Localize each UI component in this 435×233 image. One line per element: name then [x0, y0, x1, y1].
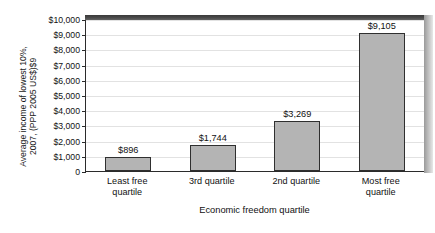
bar-value-label: $9,105	[368, 21, 396, 31]
bar	[274, 121, 320, 171]
y-axis-tick-label: $10,000	[28, 16, 80, 25]
x-axis-title: Economic freedom quartile	[85, 205, 424, 215]
x-axis-category-label: 2nd quartile	[248, 176, 344, 187]
x-axis-category-label: 3rd quartile	[164, 176, 260, 187]
plot-area: $896$1,744$3,269$9,105	[85, 20, 424, 172]
y-axis-tick-label: $9,000	[28, 31, 80, 40]
y-axis-tick-label: $8,000	[28, 46, 80, 55]
x-axis-category-label: Least free quartile	[79, 176, 175, 197]
y-axis-tick-label: $2,000	[28, 137, 80, 146]
bar-value-label: $1,744	[199, 133, 227, 143]
plot-frame-right-shadow	[424, 15, 433, 173]
x-axis-category-label: Most free quartile	[333, 176, 429, 197]
y-axis-tick-label: $7,000	[28, 61, 80, 70]
y-axis-tick-label: $5,000	[28, 92, 80, 101]
y-axis-tick-label: $1,000	[28, 152, 80, 161]
y-axis-tick-label: $3,000	[28, 122, 80, 131]
y-axis-tick-label: $6,000	[28, 76, 80, 85]
y-axis-tick-mark	[82, 172, 86, 173]
bar	[190, 145, 236, 172]
y-axis-tick-label: $4,000	[28, 107, 80, 116]
bar	[105, 157, 151, 171]
bar-chart-figure: Average income of lowest 10%, 2007, (PPP…	[0, 0, 435, 233]
y-axis-tick-label: 0	[28, 168, 80, 177]
bar	[359, 33, 405, 171]
bar-value-label: $896	[118, 145, 138, 155]
y-axis-tick-labels: $10,000$9,000$8,000$7,000$6,000$5,000$4,…	[28, 14, 80, 172]
bar-value-label: $3,269	[283, 109, 311, 119]
